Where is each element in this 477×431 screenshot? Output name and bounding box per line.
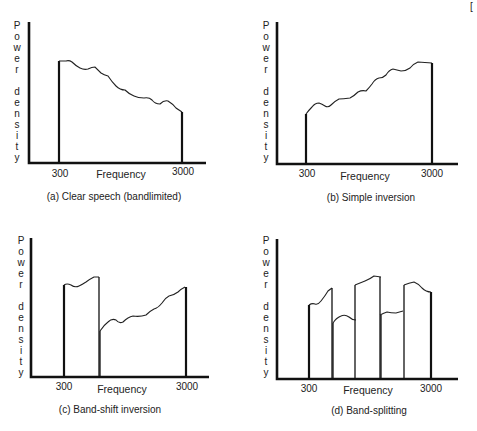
- spectrum-segment-1: [309, 288, 332, 305]
- y-axis-letter: y: [264, 152, 269, 163]
- y-axis-letter: s: [15, 119, 20, 130]
- tick-300: 300: [56, 381, 73, 392]
- y-axis-letter: n: [263, 323, 269, 334]
- x-axis-label: Frequency: [96, 168, 146, 180]
- spectrum-segment-1: [64, 277, 99, 287]
- y-axis-letter: r: [264, 64, 268, 75]
- y-axis-label: P o w e r d e n s i t y: [16, 235, 25, 378]
- y-axis-letter: t: [20, 356, 23, 367]
- tick-3000: 3000: [420, 383, 443, 394]
- y-axis-letter: n: [18, 323, 24, 334]
- axes: [29, 22, 206, 163]
- y-axis-letter: s: [19, 334, 24, 345]
- panel-d: P o w e r d e n s i t y 300: [261, 235, 458, 416]
- y-axis-letter: s: [264, 119, 269, 130]
- tick-3000: 3000: [421, 168, 444, 179]
- tick-3000: 3000: [172, 166, 195, 177]
- spectrum-segment-2: [333, 315, 356, 323]
- panel-a: P o w e r d e n s i t y 300 3000 Frequen…: [12, 20, 206, 202]
- y-axis-letter: o: [18, 246, 24, 257]
- y-axis-letter: w: [261, 42, 270, 53]
- y-axis-letter: w: [12, 42, 21, 53]
- y-axis-letter: e: [263, 312, 269, 323]
- spectrum-segment-4: [380, 311, 403, 315]
- y-axis-letter: t: [265, 141, 268, 152]
- y-axis-letter: w: [16, 257, 25, 268]
- y-axis-letter: e: [14, 53, 20, 64]
- y-axis-letter: t: [265, 356, 268, 367]
- y-axis-label: P o w e r d e n s i t y: [261, 20, 270, 163]
- y-axis-letter: e: [263, 268, 269, 279]
- x-axis-label: Frequency: [340, 170, 390, 182]
- corner-mark: [: [470, 1, 473, 12]
- axes: [31, 238, 209, 377]
- caption: (c) Band-shift inversion: [59, 404, 161, 415]
- y-axis-letter: o: [263, 31, 269, 42]
- spectrum-segment-5: [404, 282, 431, 292]
- y-axis-letter: i: [265, 130, 267, 141]
- spectrum-curve: [306, 62, 432, 114]
- caption: (d) Band-splitting: [331, 405, 407, 416]
- tick-300: 300: [301, 383, 318, 394]
- y-axis-letter: o: [263, 246, 269, 257]
- y-axis-letter: d: [263, 86, 269, 97]
- spectrum-segment-2: [100, 287, 185, 331]
- caption: (a) Clear speech (bandlimited): [47, 191, 182, 202]
- y-axis-label: P o w e r d e n s i t y: [12, 20, 21, 163]
- axes: [277, 22, 458, 164]
- panel-b: P o w e r d e n s i t y 300 3000 Frequen…: [261, 20, 458, 203]
- y-axis-letter: r: [15, 64, 19, 75]
- panel-c: P o w e r d e n s i t y 300 3000 Frequen…: [16, 235, 209, 415]
- y-axis-letter: i: [265, 345, 267, 356]
- y-axis-letter: n: [263, 108, 269, 119]
- y-axis-letter: r: [264, 279, 268, 290]
- y-axis-letter: d: [263, 301, 269, 312]
- y-axis-letter: e: [263, 97, 269, 108]
- figure-canvas: [ P o w e r d e n s i t y 300 3000 Frequ…: [0, 0, 477, 431]
- y-axis-letter: P: [18, 235, 25, 246]
- y-axis-label: P o w e r d e n s i t y: [261, 235, 270, 378]
- y-axis-letter: r: [19, 279, 23, 290]
- spectrum-curve: [59, 61, 182, 112]
- y-axis-letter: t: [16, 141, 19, 152]
- x-axis-label: Frequency: [97, 383, 147, 395]
- tick-300: 300: [52, 168, 69, 179]
- y-axis-letter: i: [16, 130, 18, 141]
- y-axis-letter: d: [14, 86, 20, 97]
- y-axis-letter: s: [264, 334, 269, 345]
- y-axis-letter: P: [14, 20, 21, 31]
- y-axis-letter: P: [263, 20, 270, 31]
- y-axis-letter: e: [14, 97, 20, 108]
- y-axis-letter: w: [261, 257, 270, 268]
- tick-3000: 3000: [176, 381, 199, 392]
- y-axis-letter: e: [18, 312, 24, 323]
- y-axis-letter: i: [20, 345, 22, 356]
- tick-300: 300: [299, 168, 316, 179]
- x-axis-label: Frequency: [343, 384, 393, 396]
- y-axis-letter: d: [18, 301, 24, 312]
- y-axis-letter: e: [18, 268, 24, 279]
- y-axis-letter: y: [15, 152, 20, 163]
- caption: (b) Simple inversion: [327, 192, 415, 203]
- y-axis-letter: P: [263, 235, 270, 246]
- y-axis-letter: o: [14, 31, 20, 42]
- y-axis-letter: e: [263, 53, 269, 64]
- y-axis-letter: n: [14, 108, 20, 119]
- y-axis-letter: y: [264, 367, 269, 378]
- y-axis-letter: y: [19, 367, 24, 378]
- spectrum-segment-3: [355, 276, 381, 285]
